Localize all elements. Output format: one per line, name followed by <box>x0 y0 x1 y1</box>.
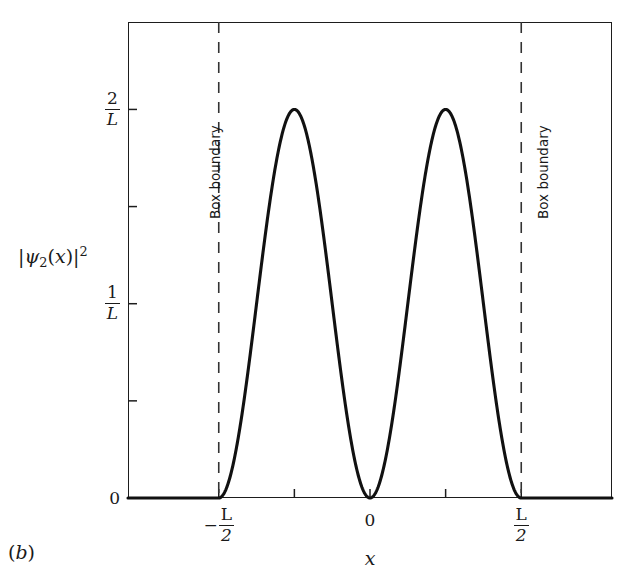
x-tick-negL2-numerator: L <box>219 506 234 526</box>
y-tick-2-denominator: L <box>105 110 120 129</box>
y-tick-label-2-over-L: 2 L <box>0 90 120 129</box>
figure-container: 2 L 1 L 0 − L 2 0 L 2 |ψ2(x)|2 x (b) Box… <box>0 0 625 581</box>
x-tick-L2-numerator: L <box>514 506 529 526</box>
y-axis-title: |ψ2(x)|2 <box>18 244 88 270</box>
y-tick-2-numerator: 2 <box>105 90 120 110</box>
y-tick-label-1-over-L: 1 L <box>0 284 120 323</box>
y-axis-title-paren-close: ) <box>66 245 73 267</box>
y-axis-title-subscript: 2 <box>39 255 47 270</box>
plot-area <box>128 22 612 498</box>
y-tick-label-zero: 0 <box>0 490 120 507</box>
y-axis-title-variable: x <box>55 245 66 267</box>
x-tick-label-L-over-2: L 2 <box>481 506 561 545</box>
panel-label: (b) <box>8 541 35 563</box>
y-axis-title-psi: ψ <box>24 245 39 267</box>
box-boundary-lines <box>219 22 522 498</box>
x-tick-L2-denominator: 2 <box>514 526 529 545</box>
minus-sign: − <box>203 515 218 535</box>
x-tick-label-neg-L-over-2: − L 2 <box>179 506 259 545</box>
y-axis-title-paren-open: ( <box>48 245 55 267</box>
box-boundary-label-right: Box boundary <box>535 125 551 219</box>
x-tick-negL2-denominator: 2 <box>219 526 234 545</box>
x-axis-title-text: x <box>365 547 376 569</box>
x-tick-label-zero: 0 <box>330 510 410 530</box>
box-boundary-label-left: Box boundary <box>207 125 223 219</box>
y-tick-1-denominator: L <box>105 304 120 323</box>
y-tick-1-numerator: 1 <box>105 284 120 304</box>
panel-label-letter: b <box>15 541 27 563</box>
y-axis-title-exponent: 2 <box>80 244 88 259</box>
tick-marks <box>128 109 521 498</box>
x-axis-title: x <box>0 547 625 569</box>
